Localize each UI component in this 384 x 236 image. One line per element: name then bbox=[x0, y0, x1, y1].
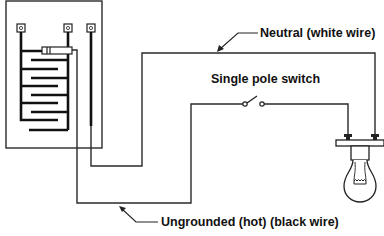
thermostat-sensor bbox=[42, 47, 72, 54]
neutral-wire bbox=[91, 53, 375, 166]
neutral-arrow-icon bbox=[217, 33, 258, 52]
single-pole-switch bbox=[243, 96, 264, 106]
switch-label: Single pole switch bbox=[211, 72, 320, 86]
light-fixture bbox=[336, 134, 384, 160]
hot-wire-to-lamp bbox=[263, 104, 348, 136]
neutral-label: Neutral (white wire) bbox=[260, 26, 375, 40]
terminal-left bbox=[17, 24, 25, 32]
hot-label: Ungrounded (hot) (black wire) bbox=[161, 215, 339, 229]
wiring-diagram: Neutral (white wire) Single pole switch … bbox=[0, 0, 384, 236]
hot-arrow-icon bbox=[119, 206, 158, 222]
terminal-right bbox=[87, 24, 95, 32]
terminal-middle bbox=[64, 24, 72, 32]
light-bulb-icon bbox=[344, 160, 376, 202]
